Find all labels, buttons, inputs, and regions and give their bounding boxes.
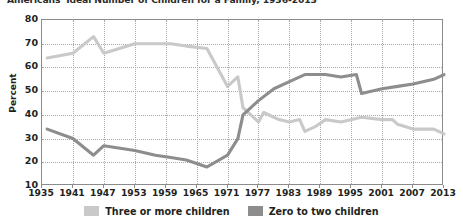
- legend-label-zero-to-two: Zero to two children: [269, 206, 379, 217]
- y-axis-tick-label: 30: [4, 133, 38, 143]
- y-axis-tick-label: 80: [4, 14, 38, 24]
- legend-item-three-or-more: Three or more children: [84, 206, 229, 217]
- chart-figure: Americans' Ideal Number of Children for …: [0, 0, 463, 224]
- legend-swatch-three-or-more: [84, 206, 99, 216]
- x-axis-tickmark: [319, 185, 320, 188]
- y-axis-tick-label: 50: [4, 85, 38, 95]
- x-axis-tickmark: [443, 185, 444, 188]
- x-axis-tick-label: 2013: [423, 188, 463, 198]
- y-axis-tick-label: 70: [4, 38, 38, 48]
- x-axis-tickmark: [288, 185, 289, 188]
- chart-legend: Three or more children Zero to two child…: [0, 203, 463, 219]
- y-axis-tick-label: 20: [4, 156, 38, 166]
- series-line-three-or-more: [47, 37, 444, 134]
- x-axis-tickmark: [196, 185, 197, 188]
- x-axis-tickmark: [134, 185, 135, 188]
- x-axis-tickmark: [72, 185, 73, 188]
- legend-label-three-or-more: Three or more children: [105, 206, 229, 217]
- y-axis-tick-label: 40: [4, 109, 38, 119]
- legend-swatch-zero-to-two: [248, 206, 263, 216]
- y-axis-tick-label: 60: [4, 61, 38, 71]
- series-lines: [42, 20, 444, 186]
- x-axis-tickmark: [412, 185, 413, 188]
- chart-title: Americans' Ideal Number of Children for …: [7, 0, 457, 6]
- x-axis-tickmark: [381, 185, 382, 188]
- plot-area: [41, 19, 443, 185]
- x-axis-tickmark: [350, 185, 351, 188]
- legend-item-zero-to-two: Zero to two children: [248, 206, 379, 217]
- x-axis-tickmark: [41, 185, 42, 188]
- x-axis-tickmark: [103, 185, 104, 188]
- x-axis-tickmark: [165, 185, 166, 188]
- x-axis-tickmark: [227, 185, 228, 188]
- x-axis-tickmark: [257, 185, 258, 188]
